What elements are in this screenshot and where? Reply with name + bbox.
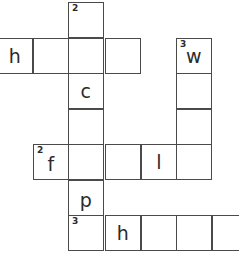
crossword-cell[interactable]: h — [0, 38, 33, 74]
crossword-cell[interactable] — [68, 109, 104, 145]
crossword-cell[interactable] — [68, 38, 104, 74]
crossword-cell[interactable] — [105, 38, 141, 74]
cell-letter: w — [177, 46, 211, 65]
clue-number: 2 — [37, 146, 43, 155]
crossword-cell[interactable] — [33, 38, 69, 74]
cell-letter: h — [0, 46, 32, 65]
clue-number: 3 — [180, 40, 186, 49]
crossword-cell[interactable] — [176, 215, 212, 251]
crossword-cell[interactable] — [141, 215, 177, 251]
cell-letter: l — [142, 152, 176, 171]
crossword-cell[interactable]: 3 — [68, 215, 104, 251]
crossword-cell[interactable] — [176, 144, 212, 180]
crossword-cell[interactable]: l — [141, 144, 177, 180]
crossword-cell[interactable]: p — [68, 180, 104, 216]
cell-letter: h — [106, 223, 140, 242]
crossword-cell[interactable]: 3w — [176, 38, 212, 74]
crossword-cell[interactable] — [176, 73, 212, 109]
crossword-cell[interactable] — [176, 109, 212, 145]
clue-number: 3 — [72, 217, 78, 226]
crossword-cell[interactable]: 2 — [68, 2, 104, 38]
crossword-grid: 2h3wc2flp3h — [0, 0, 239, 270]
clue-number: 2 — [72, 4, 78, 13]
crossword-cell[interactable] — [68, 144, 104, 180]
crossword-cell[interactable]: c — [68, 73, 104, 109]
crossword-cell[interactable] — [212, 215, 239, 251]
crossword-cell[interactable] — [105, 144, 141, 180]
cell-letter: c — [69, 81, 103, 100]
crossword-cell[interactable]: h — [105, 215, 141, 251]
cell-letter: p — [69, 191, 103, 210]
cell-letter: f — [34, 155, 68, 174]
crossword-cell[interactable]: 2f — [33, 144, 69, 180]
